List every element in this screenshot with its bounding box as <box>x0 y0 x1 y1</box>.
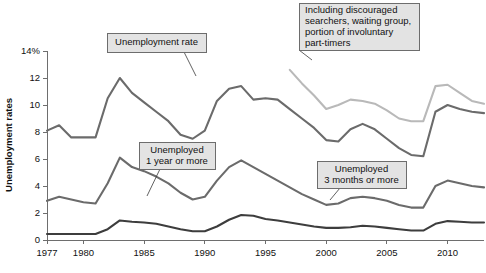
y-tick-label: 2 <box>35 207 40 218</box>
annotation-line: Including discouraged <box>305 4 397 15</box>
x-tick-label: 1980 <box>73 247 94 258</box>
x-tick-label: 1995 <box>255 247 276 258</box>
chart-canvas: 02468101214%1977198019851990199520002005… <box>0 0 486 273</box>
x-tick-label: 1985 <box>134 247 155 258</box>
y-tick-label: 6 <box>35 153 40 164</box>
y-tick-label: 10 <box>29 99 40 110</box>
annotation-line: Unemployed <box>150 144 203 155</box>
annotation-line: searchers, waiting group, <box>305 15 411 26</box>
x-tick-label: 2000 <box>316 247 337 258</box>
y-tick-label: 12 <box>29 72 40 83</box>
y-tick-label: 14% <box>21 45 41 56</box>
annotation-line: 1 year or more <box>146 155 208 166</box>
y-axis-title: Unemployment rates <box>3 98 14 192</box>
unemployment-rates-chart: 02468101214%1977198019851990199520002005… <box>0 0 486 273</box>
y-tick-label: 0 <box>35 234 40 245</box>
annotation-line: 3 months or more <box>324 174 398 185</box>
annotation-line: part-timers <box>305 37 351 48</box>
x-tick-label: 1977 <box>36 247 57 258</box>
x-tick-label: 2010 <box>437 247 458 258</box>
annotation-line: portion of involuntary <box>305 26 393 37</box>
annotation-line: Unemployed <box>335 163 388 174</box>
y-tick-label: 8 <box>35 126 40 137</box>
x-tick-label: 1990 <box>194 247 215 258</box>
y-tick-label: 4 <box>35 180 40 191</box>
annotation-line: Unemployment rate <box>115 36 198 47</box>
x-tick-label: 2005 <box>376 247 397 258</box>
